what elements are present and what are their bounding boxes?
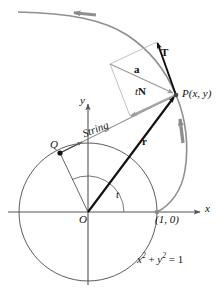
angle-t-label: t bbox=[116, 189, 119, 200]
involute-diagram: x y O Q P(x, y) (1, 0) t r T a tN String… bbox=[0, 0, 221, 292]
point-Q-dot bbox=[57, 150, 62, 155]
diagram-canvas bbox=[0, 0, 221, 292]
position-vector-label: r bbox=[142, 136, 147, 147]
unit-point-label: (1, 0) bbox=[155, 214, 179, 225]
point-P-dot bbox=[174, 93, 179, 98]
equation-equals-one: = 1 bbox=[166, 253, 183, 265]
involute-direction-arrow-lower bbox=[180, 119, 183, 143]
angle-arc-q bbox=[72, 176, 106, 181]
tN-vector bbox=[131, 95, 176, 116]
origin-label: O bbox=[79, 214, 87, 225]
point-Q-label: Q bbox=[50, 139, 58, 150]
tN-vector-label: tN bbox=[135, 86, 146, 97]
point-P-label: P(x, y) bbox=[182, 88, 211, 99]
position-vector-r bbox=[88, 97, 174, 212]
involute-curve bbox=[18, 12, 187, 212]
x-axis-label: x bbox=[205, 203, 210, 214]
y-axis-label: y bbox=[80, 95, 85, 106]
equation-plus: + bbox=[146, 253, 158, 265]
acceleration-vector-label: a bbox=[134, 64, 140, 75]
circle-equation-label: x2 + y2 = 1 bbox=[137, 252, 183, 265]
tangent-vector-label: T bbox=[161, 47, 168, 58]
involute-direction-arrow-upper bbox=[74, 13, 96, 15]
tN-vector-N: N bbox=[138, 85, 146, 97]
radius-OQ bbox=[60, 153, 88, 212]
